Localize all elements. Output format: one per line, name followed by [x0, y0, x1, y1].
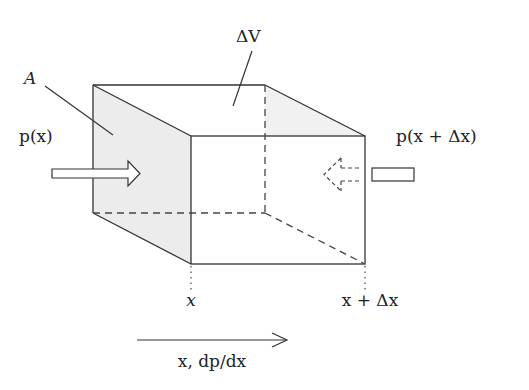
pressure-left-label: p(x) [19, 126, 53, 146]
volume-leader-line [233, 51, 252, 106]
position-right-label: x + Δx [342, 290, 399, 310]
volume-element-diagram: A ΔV p(x) p(x + Δx) x x + Δx x, dp/dx [0, 0, 529, 390]
area-label: A [22, 68, 36, 88]
axis-arrow-icon [137, 333, 287, 347]
position-left-label: x [186, 290, 196, 310]
axis-label: x, dp/dx [178, 351, 247, 371]
position-markers [191, 266, 365, 290]
pressure-right-label: p(x + Δx) [396, 126, 477, 146]
front-face [191, 136, 365, 264]
volume-label: ΔV [236, 26, 261, 46]
